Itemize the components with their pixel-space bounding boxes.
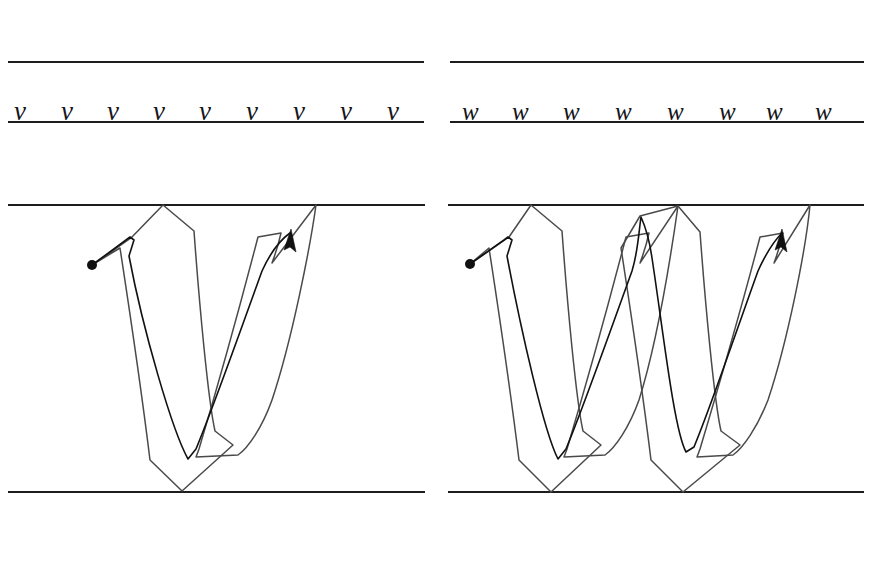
practice-letter-w: w <box>667 98 684 125</box>
left-practice-letters: v v v v v v v v v <box>14 96 399 126</box>
practice-letter-v: v <box>199 96 211 126</box>
practice-letter-w: w <box>815 98 832 125</box>
start-dot-icon <box>465 259 475 269</box>
practice-letter-w: w <box>563 98 580 125</box>
practice-letter-v: v <box>387 96 399 126</box>
practice-sheet: v v v v v v v v v <box>0 0 893 561</box>
practice-letter-v: v <box>107 96 119 126</box>
practice-sheet-canvas: v v v v v v v v v <box>0 0 893 561</box>
practice-letter-w: w <box>719 98 736 125</box>
start-dot-icon <box>87 260 97 270</box>
practice-letter-w: w <box>512 98 529 125</box>
practice-letter-v: v <box>61 96 73 126</box>
practice-letter-v: v <box>14 96 26 126</box>
practice-letter-v: v <box>246 96 258 126</box>
practice-letter-v: v <box>340 96 352 126</box>
practice-letter-w: w <box>462 98 479 125</box>
practice-letter-v: v <box>293 96 305 126</box>
practice-letter-w: w <box>766 98 783 125</box>
practice-letter-v: v <box>153 96 165 126</box>
practice-letter-w: w <box>615 98 632 125</box>
